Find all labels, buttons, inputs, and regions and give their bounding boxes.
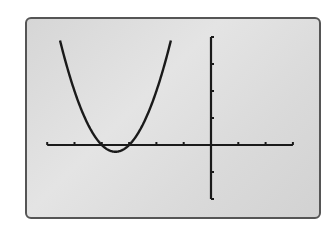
parabola-path	[60, 40, 171, 151]
calculator-screen	[25, 17, 321, 219]
parabola-curve	[60, 40, 171, 151]
graph-plot	[27, 19, 319, 217]
